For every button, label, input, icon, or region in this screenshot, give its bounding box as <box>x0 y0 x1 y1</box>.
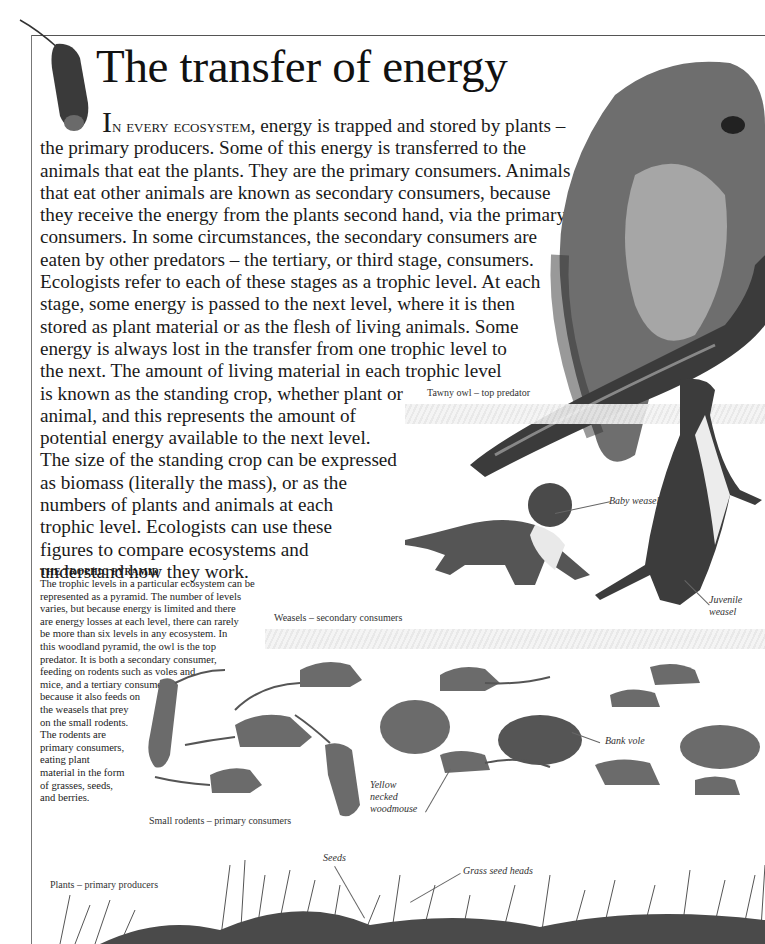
grass-illustration <box>40 855 765 944</box>
intro-line: consumers. In some circumstances, the se… <box>40 226 600 248</box>
callout-baby-weasel: Baby weasel <box>609 495 659 507</box>
level-band-weasel <box>265 629 765 649</box>
frame-left-rule <box>31 35 32 944</box>
intro-line: they receive the energy from the plants … <box>40 204 600 226</box>
callout-bank-vole: Bank vole <box>605 735 645 747</box>
intro-line: the primary producers. Some of this ener… <box>40 137 600 159</box>
drop-cap: I <box>102 105 112 138</box>
intro-line-1: In every ecosystem, energy is trapped an… <box>40 112 600 137</box>
rodents-illustration <box>140 655 765 825</box>
callout-juvenile-weasel: Juvenile weasel <box>709 594 742 618</box>
callout-woodmouse: Yellow necked woodmouse <box>370 779 417 815</box>
baby-weasel-illustration <box>405 475 615 590</box>
label-owl-level: Tawny owl – top predator <box>427 387 530 398</box>
intro-line: animals that eat the plants. They are th… <box>40 160 600 182</box>
sidebar-heading: THE TROPHIC PYRAMID <box>40 567 159 577</box>
page-title: The transfer of energy <box>96 38 507 94</box>
label-weasel-level: Weasels – secondary consumers <box>274 612 402 623</box>
label-rodent-level: Small rodents – primary consumers <box>149 815 291 826</box>
frame-top-rule <box>31 35 765 36</box>
juvenile-weasel-illustration <box>590 375 765 610</box>
intro-line: that eat other animals are known as seco… <box>40 182 600 204</box>
